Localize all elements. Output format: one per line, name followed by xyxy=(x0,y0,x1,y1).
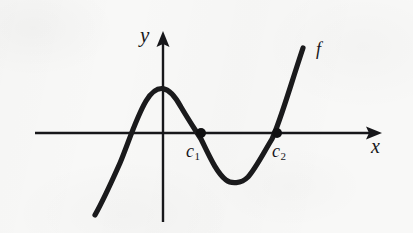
root-label-c1: c1 xyxy=(186,142,200,160)
curve-label-f: f xyxy=(316,40,321,58)
root-label-c2-base: c xyxy=(272,141,280,161)
root-dot-c1 xyxy=(196,128,206,138)
root-label-c1-subscript: 1 xyxy=(195,150,201,162)
graph-canvas xyxy=(0,0,413,233)
y-axis xyxy=(157,31,170,222)
root-label-c2-subscript: 2 xyxy=(281,150,287,162)
root-label-c2: c2 xyxy=(272,142,286,160)
x-axis xyxy=(35,127,382,140)
y-axis-label: y xyxy=(140,25,149,46)
figure-container: y x f c1 c2 xyxy=(0,0,413,233)
x-axis-label: x xyxy=(371,136,380,156)
root-dot-c2 xyxy=(272,128,282,138)
root-label-c1-base: c xyxy=(186,141,194,161)
